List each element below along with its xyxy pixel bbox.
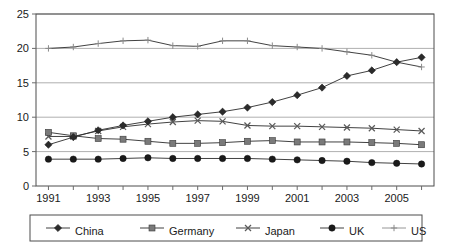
data-point-marker: [244, 38, 250, 44]
line-chart: 0510152025199119931995199719992001200320…: [0, 0, 452, 252]
y-tick-label: 15: [17, 77, 29, 89]
series-line: [48, 132, 421, 144]
series-line: [48, 40, 421, 67]
series-china: [45, 54, 425, 149]
data-point-marker: [269, 98, 276, 105]
x-tick-label: 2003: [335, 192, 359, 204]
series-uk: [45, 155, 425, 168]
data-point-marker: [269, 42, 275, 48]
data-point-marker: [344, 158, 350, 164]
legend-label: China: [75, 225, 105, 237]
series-line: [48, 121, 421, 137]
data-point-marker: [319, 139, 325, 145]
data-point-marker: [294, 139, 300, 145]
y-tick-label: 25: [17, 8, 29, 20]
data-point-marker: [269, 156, 275, 162]
data-point-marker: [219, 155, 225, 161]
data-point-marker: [95, 136, 101, 142]
data-point-marker: [343, 72, 350, 79]
data-point-marker: [145, 138, 151, 144]
data-point-marker: [70, 44, 76, 50]
series-germany: [45, 129, 424, 147]
x-tick-label: 1999: [235, 192, 259, 204]
data-point-marker: [418, 54, 425, 61]
data-point-marker: [318, 84, 325, 91]
data-point-marker: [45, 45, 51, 51]
data-point-marker: [369, 140, 375, 146]
data-point-marker: [194, 155, 200, 161]
data-point-marker: [294, 157, 300, 163]
data-point-marker: [95, 40, 101, 46]
y-tick-label: 0: [23, 180, 29, 192]
data-point-marker: [45, 156, 51, 162]
y-axis: 0510152025: [17, 8, 36, 192]
data-point-marker: [418, 64, 424, 70]
legend-label: UK: [349, 225, 365, 237]
data-point-marker: [219, 108, 226, 115]
x-tick-label: 1997: [185, 192, 209, 204]
data-point-marker: [120, 136, 126, 142]
data-point-marker: [294, 92, 301, 99]
data-point-marker: [244, 138, 250, 144]
data-point-marker: [394, 140, 400, 146]
data-point-marker: [319, 157, 325, 163]
y-tick-label: 20: [17, 42, 29, 54]
data-point-marker: [120, 38, 126, 44]
data-point-marker: [344, 139, 350, 145]
data-point-marker: [149, 225, 155, 231]
data-point-marker: [45, 129, 51, 135]
data-point-marker: [319, 45, 325, 51]
data-point-marker: [70, 156, 76, 162]
x-tick-label: 2001: [285, 192, 309, 204]
x-axis: 19911993199519971999200120032005: [36, 186, 421, 204]
data-point-marker: [120, 155, 126, 161]
data-point-marker: [294, 44, 300, 50]
data-point-marker: [368, 67, 375, 74]
data-point-marker: [419, 142, 425, 148]
x-tick-label: 1995: [136, 192, 160, 204]
data-point-marker: [170, 155, 176, 161]
data-point-marker: [344, 49, 350, 55]
y-tick-label: 5: [23, 146, 29, 158]
data-point-marker: [329, 225, 335, 231]
data-point-marker: [170, 42, 176, 48]
chart-canvas: 0510152025199119931995199719992001200320…: [0, 0, 452, 252]
data-point-marker: [195, 140, 201, 146]
data-point-marker: [244, 155, 250, 161]
x-tick-label: 2005: [384, 192, 408, 204]
data-point-marker: [220, 140, 226, 146]
data-point-marker: [393, 59, 400, 66]
data-point-marker: [269, 138, 275, 144]
legend-label: US: [411, 225, 426, 237]
data-point-marker: [95, 156, 101, 162]
data-point-marker: [170, 140, 176, 146]
series-line: [48, 158, 421, 164]
y-tick-label: 10: [17, 111, 29, 123]
data-point-marker: [145, 37, 151, 43]
data-point-marker: [244, 104, 251, 111]
legend: ChinaGermanyJapanUKUS: [30, 215, 426, 241]
data-point-marker: [418, 161, 424, 167]
x-tick-label: 1991: [36, 192, 60, 204]
legend-label: Germany: [169, 225, 215, 237]
series-line: [48, 57, 421, 144]
series-us: [45, 37, 425, 70]
data-point-marker: [219, 38, 225, 44]
data-point-marker: [369, 52, 375, 58]
series-japan: [45, 118, 424, 140]
data-point-marker: [393, 160, 399, 166]
data-point-marker: [45, 141, 52, 148]
data-point-marker: [119, 122, 126, 129]
data-point-marker: [145, 155, 151, 161]
x-tick-label: 1993: [86, 192, 110, 204]
legend-label: Japan: [265, 225, 295, 237]
data-point-marker: [369, 159, 375, 165]
